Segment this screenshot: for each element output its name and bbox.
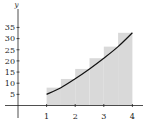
riemann-rectangle bbox=[47, 88, 61, 106]
x-ticks: 1234 bbox=[44, 104, 135, 121]
y-tick-label: 5 bbox=[10, 90, 15, 99]
y-axis-label: y bbox=[14, 1, 20, 9]
riemann-rectangle bbox=[90, 58, 104, 105]
y-tick-label: 30 bbox=[5, 34, 15, 43]
y-tick-label: 20 bbox=[5, 57, 15, 66]
y-tick-label: 35 bbox=[5, 23, 15, 32]
y-tick-label: 15 bbox=[5, 68, 15, 77]
y-ticks: 5101520253035 bbox=[5, 23, 20, 99]
y-tick-label: 10 bbox=[5, 79, 15, 88]
riemann-rectangle bbox=[104, 47, 118, 106]
x-tick-label: 3 bbox=[101, 112, 106, 121]
riemann-sum-chart: 1234 5101520253035 y bbox=[0, 0, 143, 123]
y-tick-label: 25 bbox=[5, 46, 15, 55]
x-tick-label: 1 bbox=[44, 112, 49, 121]
x-tick-label: 4 bbox=[130, 112, 135, 121]
x-tick-label: 2 bbox=[73, 112, 78, 121]
riemann-rectangle bbox=[118, 33, 132, 106]
